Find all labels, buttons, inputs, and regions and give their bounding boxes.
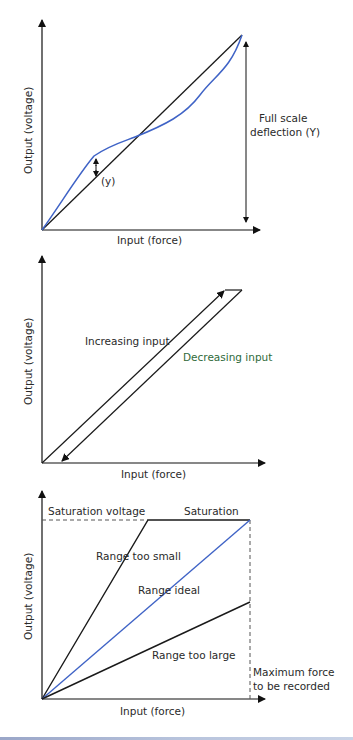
y-axis-label: Output (voltage)	[22, 87, 34, 174]
saturation-voltage-label: Saturation voltage	[48, 505, 145, 517]
range-ideal-line	[42, 520, 250, 699]
panel-range: Saturation voltage Saturation Range too …	[22, 491, 335, 717]
x-axis-label: Input (force)	[120, 705, 185, 717]
saturation-label: Saturation	[184, 505, 239, 517]
increasing-line	[42, 291, 224, 463]
ideal-line	[42, 35, 242, 230]
y-axis-label: Output (voltage)	[22, 553, 34, 640]
max-force-label-2: to be recorded	[253, 680, 330, 692]
decreasing-label: Decreasing input	[183, 351, 272, 363]
range-too-large-label: Range too large	[152, 649, 236, 661]
range-ideal-label: Range ideal	[138, 584, 200, 596]
increasing-label: Increasing input	[85, 335, 170, 347]
decreasing-line	[62, 290, 242, 461]
figure-canvas: (y) Full scale deflection (Y) Input (for…	[0, 0, 353, 740]
x-axis-label: Input (force)	[117, 234, 182, 246]
max-force-label-1: Maximum force	[253, 666, 335, 678]
deviation-label: (y)	[101, 175, 115, 187]
full-scale-label-2: deflection (Y)	[250, 126, 320, 138]
x-axis-label: Input (force)	[121, 468, 186, 480]
full-scale-label-1: Full scale	[259, 112, 307, 124]
range-too-small-label: Range too small	[96, 550, 181, 562]
panel-nonlinearity: (y) Full scale deflection (Y) Input (for…	[22, 20, 320, 246]
y-axis-label: Output (voltage)	[22, 318, 34, 405]
panel-hysteresis: Increasing input Decreasing input Input …	[22, 256, 272, 480]
